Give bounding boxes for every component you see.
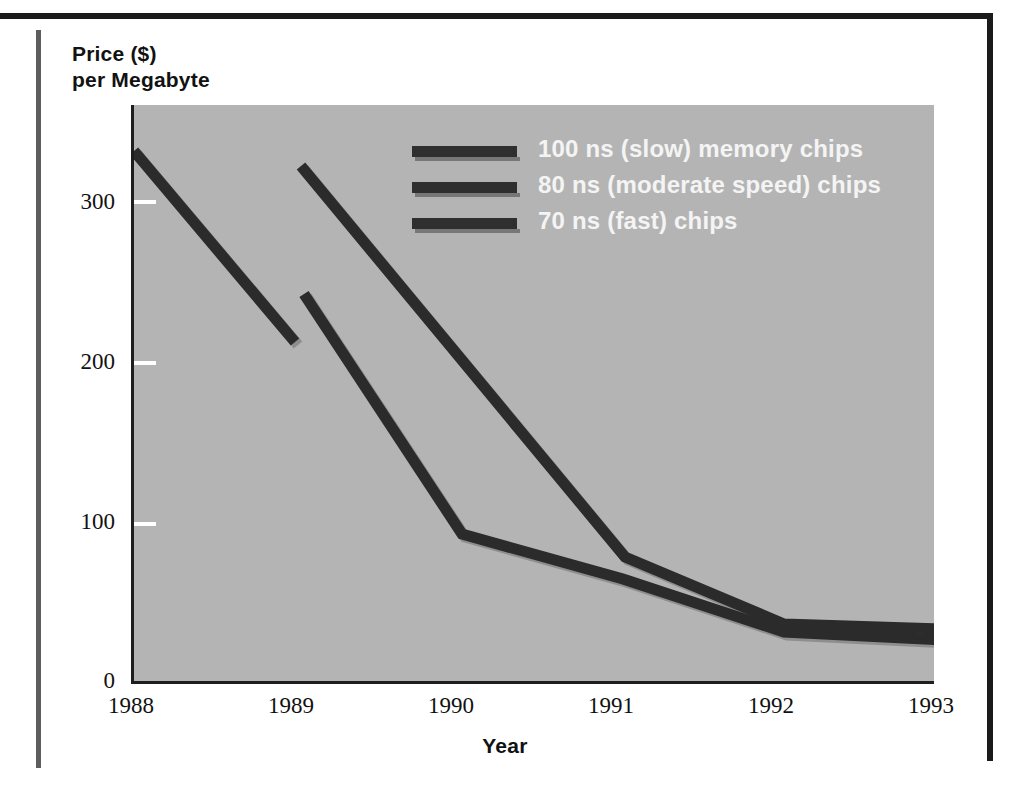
legend-swatch-70ns [412,218,517,229]
y-axis-title: Price ($) per Megabyte [72,41,210,92]
y-tick-label-100: 100 [55,509,115,535]
legend-swatch-80ns [412,182,517,193]
x-axis-title: Year [0,734,1010,758]
y-tick-label-300: 300 [55,189,115,215]
legend-label-100ns: 100 ns (slow) memory chips [538,135,863,163]
x-tick-label-1990: 1990 [391,693,511,719]
legend-label-80ns: 80 ns (moderate speed) chips [538,171,881,199]
series-line-100ns [134,151,295,342]
x-tick-label-1993: 1993 [871,693,991,719]
y-tick-marks [134,200,156,526]
line-chart-figure: Price ($) per Megabyte 300 200 100 0 [0,0,1010,803]
legend-item-80ns: 80 ns (moderate speed) chips [412,171,882,207]
y-tick-label-0: 0 [55,668,115,694]
legend-item-100ns: 100 ns (slow) memory chips [412,135,882,171]
series-line-70ns [304,294,934,640]
x-tick-label-1991: 1991 [551,693,671,719]
chart-legend: 100 ns (slow) memory chips 80 ns (modera… [412,135,882,243]
x-tick-label-1988: 1988 [71,693,191,719]
legend-swatch-100ns [412,146,517,157]
x-tick-label-1989: 1989 [231,693,351,719]
legend-item-70ns: 70 ns (fast) chips [412,207,882,243]
x-tick-label-1992: 1992 [711,693,831,719]
legend-label-70ns: 70 ns (fast) chips [538,207,738,235]
plot-area: 100 ns (slow) memory chips 80 ns (modera… [131,105,934,684]
y-tick-label-200: 200 [55,349,115,375]
